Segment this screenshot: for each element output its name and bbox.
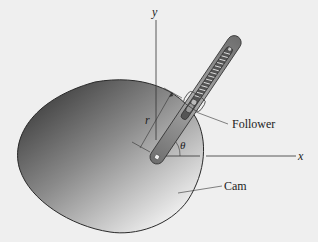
follower-label: Follower bbox=[232, 118, 275, 130]
follower-leader-line bbox=[196, 112, 228, 124]
cam-label: Cam bbox=[224, 180, 247, 192]
radius-label: r bbox=[145, 114, 150, 126]
x-axis-label: x bbox=[298, 150, 303, 162]
theta-label: θ bbox=[180, 140, 185, 151]
y-axis-label: y bbox=[152, 6, 157, 18]
